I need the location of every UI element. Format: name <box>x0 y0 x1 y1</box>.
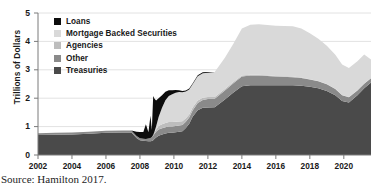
x-tick-label: 2016 <box>259 161 293 171</box>
legend-item: Mortgage Backed Securities <box>54 27 177 39</box>
y-tick-label: 0 <box>16 150 30 160</box>
x-tick-label: 2012 <box>191 161 225 171</box>
legend-swatch-icon <box>54 55 61 62</box>
chart-legend: LoansMortgage Backed SecuritiesAgenciesO… <box>54 15 177 77</box>
legend-swatch-icon <box>54 67 61 74</box>
legend-swatch-icon <box>54 42 61 49</box>
y-tick-label: 2 <box>16 93 30 103</box>
x-tick-label: 2014 <box>225 161 259 171</box>
legend-swatch-icon <box>54 30 61 37</box>
x-tick-label: 2010 <box>157 161 191 171</box>
legend-label: Treasuries <box>66 66 107 75</box>
legend-label: Agencies <box>66 41 103 50</box>
y-tick-label: 4 <box>16 36 30 46</box>
x-tick-label: 2004 <box>55 161 89 171</box>
y-tick-label: 3 <box>16 64 30 74</box>
legend-label: Loans <box>66 17 90 26</box>
x-tick-label: 2020 <box>327 161 361 171</box>
y-tick-label: 5 <box>16 8 30 18</box>
legend-label: Other <box>66 54 88 63</box>
legend-item: Agencies <box>54 40 177 52</box>
legend-item: Other <box>54 52 177 64</box>
x-tick-label: 2006 <box>89 161 123 171</box>
legend-swatch-icon <box>54 18 61 25</box>
x-tick-label: 2018 <box>293 161 327 171</box>
x-tick-label: 2002 <box>21 161 55 171</box>
legend-item: Loans <box>54 15 177 27</box>
y-tick-label: 1 <box>16 121 30 131</box>
legend-item: Treasuries <box>54 65 177 77</box>
figure-container: Trillions of Dollars 012345 200220042006… <box>0 0 374 189</box>
source-caption: Source: Hamilton 2017. <box>1 173 106 185</box>
x-tick-label: 2008 <box>123 161 157 171</box>
legend-label: Mortgage Backed Securities <box>66 29 177 38</box>
